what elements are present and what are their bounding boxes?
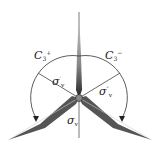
symbol: σ xyxy=(99,85,107,98)
label-sigma-v: σv xyxy=(67,115,78,127)
symbol: σ xyxy=(67,114,75,127)
subscript: v xyxy=(75,120,78,127)
arrow-head-right xyxy=(119,116,125,122)
arrow-head-left xyxy=(33,116,39,122)
label-sigma-v-double-prime: σ″v xyxy=(99,86,112,98)
label-c3-minus: C3− xyxy=(105,50,122,62)
subscript: v xyxy=(61,81,64,88)
label-sigma-v-prime: σ′v xyxy=(52,76,64,88)
subscript: 3 xyxy=(113,55,117,62)
label-c3-plus: C3+ xyxy=(34,50,51,62)
c3v-diagram xyxy=(0,0,158,153)
subscript: v xyxy=(109,91,112,98)
blade-right xyxy=(79,96,152,140)
superscript: − xyxy=(117,49,122,56)
center-hub xyxy=(76,95,83,102)
subscript: 3 xyxy=(42,55,46,62)
superscript: + xyxy=(46,49,51,56)
symbol: σ xyxy=(52,75,60,88)
